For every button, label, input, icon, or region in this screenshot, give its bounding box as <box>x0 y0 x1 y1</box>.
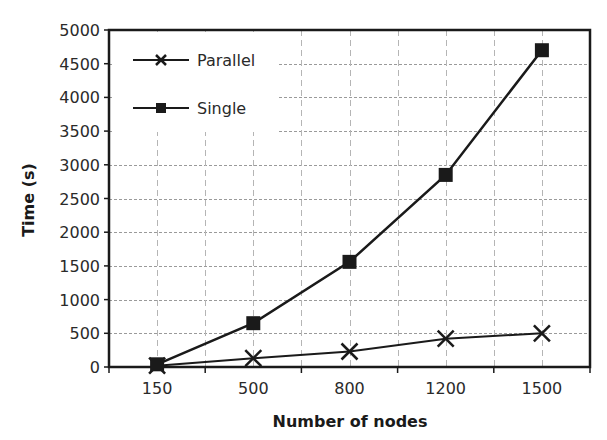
y-tick-label: 0 <box>90 358 100 377</box>
x-tick-label: 800 <box>334 379 365 398</box>
series-line <box>157 333 542 365</box>
legend-box <box>112 32 278 132</box>
legend-square-icon <box>156 103 166 113</box>
y-axis-title: Time (s) <box>19 163 38 237</box>
y-tick-label: 4000 <box>59 88 100 107</box>
square-marker <box>343 255 357 269</box>
square-marker <box>246 316 260 330</box>
y-tick-label: 2000 <box>59 223 100 242</box>
square-marker <box>439 168 453 182</box>
y-tick-label: 5000 <box>59 21 100 40</box>
y-axis-ticks: 0500100015002000250030003500400045005000 <box>59 21 109 377</box>
y-tick-label: 2500 <box>59 190 100 209</box>
x-axis-ticks: 15050080012001500 <box>109 367 590 398</box>
y-tick-label: 1500 <box>59 257 100 276</box>
y-tick-label: 4500 <box>59 55 100 74</box>
legend-background <box>112 32 278 132</box>
y-tick-label: 1000 <box>59 291 100 310</box>
x-tick-label: 500 <box>238 379 269 398</box>
square-marker <box>535 43 549 57</box>
y-tick-label: 3000 <box>59 156 100 175</box>
x-tick-label: 1200 <box>425 379 466 398</box>
legend-label: Single <box>197 99 246 118</box>
y-tick-label: 500 <box>69 324 100 343</box>
x-axis-title: Number of nodes <box>273 412 428 431</box>
x-tick-label: 150 <box>142 379 173 398</box>
line-chart: 0500100015002000250030003500400045005000… <box>0 0 607 440</box>
x-tick-label: 1500 <box>522 379 563 398</box>
legend-label: Parallel <box>197 51 255 70</box>
y-tick-label: 3500 <box>59 122 100 141</box>
square-marker <box>150 357 164 371</box>
